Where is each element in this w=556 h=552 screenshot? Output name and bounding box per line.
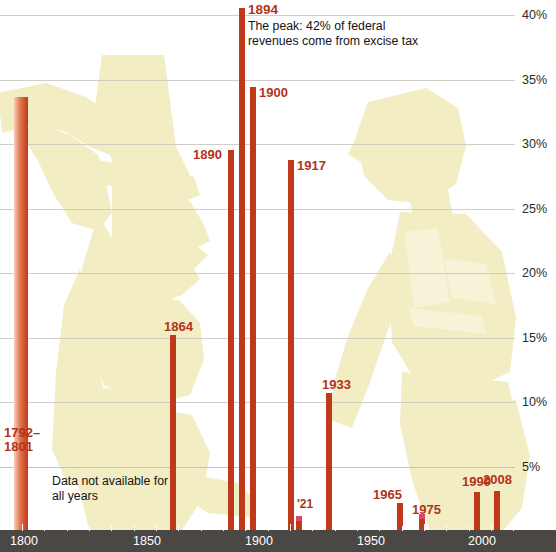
peak-callout-year: 1894 — [248, 2, 433, 18]
gridline-25 — [0, 209, 515, 210]
bar-label-2008: 2008 — [483, 473, 512, 487]
x-tick-minor — [335, 526, 336, 531]
bar-1792-1801 — [14, 97, 28, 530]
bar-1900 — [250, 87, 256, 530]
bar-label-1917: 1917 — [297, 159, 326, 173]
x-tick-minor — [357, 526, 358, 531]
data-availability-note: Data not available for all years — [52, 474, 172, 504]
x-tick-minor — [245, 526, 246, 531]
bar-label-1965: 1965 — [373, 488, 402, 502]
y-axis-label-40: 40% — [522, 9, 547, 22]
gridline-5 — [0, 467, 515, 468]
gridline-15 — [0, 338, 515, 339]
y-axis-label-25: 25% — [522, 203, 547, 216]
peak-callout-text: The peak: 42% of federal revenues come f… — [248, 19, 433, 49]
bar-1999 — [474, 492, 480, 530]
x-tick-1900 — [290, 524, 291, 531]
x-tick-minor — [446, 526, 447, 531]
bar-label-1900: 1900 — [259, 86, 288, 100]
bar-label-1792-1801-line2: 1801 — [4, 439, 33, 454]
x-axis-ticks: 1800 1850 1900 1950 2000 — [0, 530, 515, 552]
bar-label-1975: 1975 — [412, 503, 441, 517]
x-tick-minor — [491, 526, 492, 531]
x-tick-minor — [469, 526, 470, 531]
x-tick-minor — [223, 526, 224, 531]
x-tick-1850 — [156, 524, 157, 531]
bar-1894 — [239, 8, 245, 530]
gridline-30 — [0, 144, 515, 145]
x-axis-label-1850: 1850 — [133, 535, 161, 548]
top-hat-man-silhouette-icon — [0, 55, 264, 530]
x-tick-minor — [513, 526, 514, 531]
x-tick-minor — [268, 526, 269, 531]
x-axis-label-2000: 2000 — [468, 535, 496, 548]
x-tick-1950 — [424, 524, 425, 531]
x-tick-minor — [402, 526, 403, 531]
gridline-10 — [0, 402, 515, 403]
bar-label-1792-1801: 1792– 1801 — [4, 426, 62, 454]
bar-1921 — [296, 516, 302, 530]
laptop-man-silhouette-icon — [330, 72, 545, 530]
y-axis-label-10: 10% — [522, 396, 547, 409]
x-tick-minor — [201, 526, 202, 531]
bar-label-1890: 1890 — [193, 148, 222, 162]
y-axis-label-15: 15% — [522, 332, 547, 345]
x-axis: 1800 1850 1900 1950 2000 — [0, 530, 556, 552]
y-axis-label-20: 20% — [522, 267, 547, 280]
gridline-35 — [0, 80, 515, 81]
x-tick-minor — [89, 526, 90, 531]
x-tick-minor — [67, 526, 68, 531]
bar-label-1792-1801-line1: 1792– — [4, 425, 40, 440]
x-tick-minor — [178, 526, 179, 531]
plot-area: 1792– 1801 1864 1890 1900 1917 '21 1933 … — [0, 0, 556, 530]
y-axis-label-5: 5% — [522, 461, 540, 474]
bar-label-1933: 1933 — [322, 378, 351, 392]
peak-callout-annotation: 1894 The peak: 42% of federal revenues c… — [248, 2, 433, 49]
bar-1917 — [288, 160, 294, 530]
x-tick-minor — [111, 526, 112, 531]
bar-1890 — [228, 150, 234, 530]
bar-label-1921: '21 — [297, 498, 313, 511]
y-axis-label-35: 35% — [522, 74, 547, 87]
x-tick-minor — [44, 526, 45, 531]
excise-tax-chart: 1792– 1801 1864 1890 1900 1917 '21 1933 … — [0, 0, 556, 552]
bar-1933 — [326, 393, 332, 530]
x-axis-label-1900: 1900 — [245, 535, 273, 548]
x-tick-minor — [312, 526, 313, 531]
x-tick-1800 — [22, 524, 23, 531]
bar-label-1864: 1864 — [164, 320, 193, 334]
bar-2008 — [494, 491, 500, 530]
x-tick-minor — [134, 526, 135, 531]
x-axis-label-1950: 1950 — [357, 535, 385, 548]
gridline-20 — [0, 273, 515, 274]
x-tick-minor — [379, 526, 380, 531]
x-axis-label-1800: 1800 — [10, 535, 38, 548]
y-axis-label-30: 30% — [522, 138, 547, 151]
